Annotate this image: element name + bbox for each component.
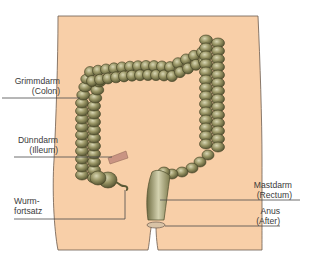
label-ileum-name: Dünndarm	[8, 135, 58, 145]
descending-colon	[200, 35, 225, 152]
label-colon-name: Grimmdarm	[8, 76, 60, 86]
label-anus: Anus (After)	[250, 206, 280, 226]
label-rectum-name: Mastdarm	[250, 180, 292, 190]
label-rectum: Mastdarm (Rectum)	[250, 180, 292, 200]
label-ileum: Dünndarm (Illeum)	[8, 135, 58, 155]
label-colon-latin: (Colon)	[8, 86, 60, 96]
label-colon: Grimmdarm (Colon)	[8, 76, 60, 96]
label-anus-name: Anus	[250, 206, 280, 216]
label-ileum-latin: (Illeum)	[8, 145, 58, 155]
anal-sphincter	[147, 222, 165, 228]
haustrum	[90, 171, 106, 185]
label-anus-latin: (After)	[250, 216, 280, 226]
haustrum	[212, 142, 225, 152]
label-appendix-line2: fortsatz	[14, 206, 42, 216]
label-rectum-latin: (Rectum)	[250, 190, 292, 200]
haustrum	[200, 139, 213, 149]
label-appendix-line1: Wurm-	[14, 196, 42, 206]
label-appendix: Wurm- fortsatz	[14, 196, 42, 216]
